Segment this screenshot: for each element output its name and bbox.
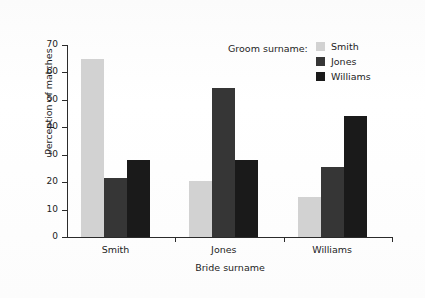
bar: [189, 181, 212, 237]
bar: [212, 88, 235, 237]
y-tick-mark: [62, 237, 67, 238]
bar: [127, 160, 150, 237]
legend-entry: Smith: [316, 41, 359, 52]
legend-title: Groom surname:: [228, 43, 308, 54]
y-tick-label: 30: [24, 149, 58, 159]
legend-entry: Williams: [316, 71, 371, 82]
y-tick-label: 60: [24, 66, 58, 76]
x-axis-title: Bride surname: [67, 262, 393, 273]
x-tick-mark: [175, 237, 176, 242]
y-tick-label: 70: [24, 39, 58, 49]
x-axis-category-label: Williams: [312, 244, 352, 255]
legend-swatch-icon: [316, 57, 325, 66]
bar: [321, 167, 344, 237]
x-axis-category-label: Jones: [211, 244, 236, 255]
bar: [235, 160, 258, 237]
legend-entry: Jones: [316, 56, 356, 67]
y-tick-label: 40: [24, 121, 58, 131]
x-tick-mark: [392, 237, 393, 242]
y-tick-label: 20: [24, 176, 58, 186]
y-tick-label: 50: [24, 94, 58, 104]
bar: [81, 59, 104, 237]
bar: [104, 178, 127, 237]
x-axis-category-label: Smith: [102, 244, 130, 255]
y-tick-label: 0: [24, 231, 58, 241]
legend-label: Smith: [331, 41, 359, 52]
x-tick-mark: [284, 237, 285, 242]
x-axis-line: [67, 237, 393, 238]
y-tick-label: 10: [24, 204, 58, 214]
legend-label: Jones: [331, 56, 356, 67]
bar: [344, 116, 367, 237]
chart-figure: Perception of matches 010203040506070 Sm…: [0, 0, 425, 298]
bar: [298, 197, 321, 237]
legend-label: Williams: [331, 71, 371, 82]
legend-swatch-icon: [316, 72, 325, 81]
legend-swatch-icon: [316, 42, 325, 51]
